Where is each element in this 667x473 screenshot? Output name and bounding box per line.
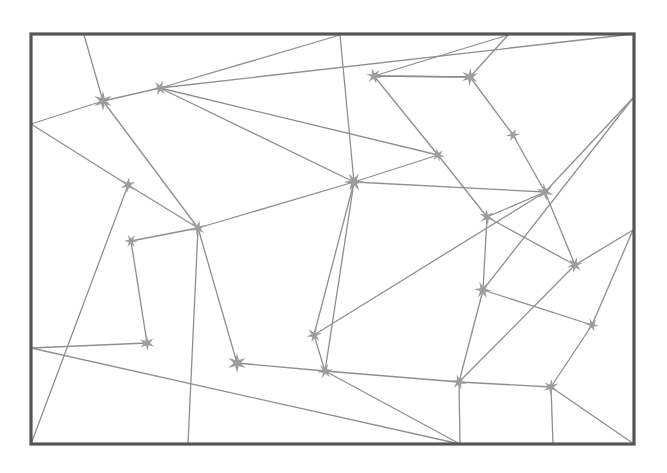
canvas-background	[0, 0, 667, 473]
star-network-diagram	[0, 0, 667, 473]
